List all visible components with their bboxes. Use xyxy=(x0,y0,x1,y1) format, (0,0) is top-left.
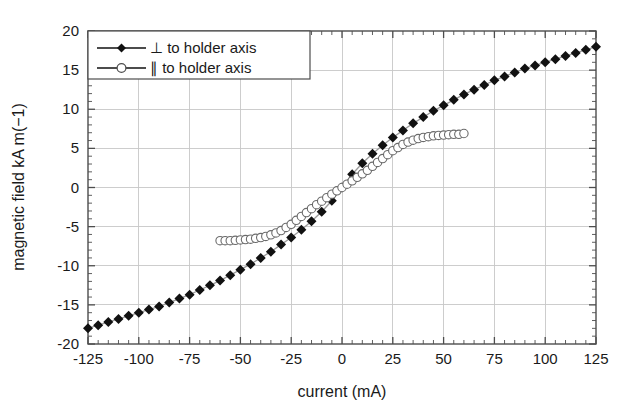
x-tick-label: 50 xyxy=(435,350,452,367)
chart-legend: ⊥ to holder axis ∥ to holder axis xyxy=(88,31,310,79)
x-tick-label: -25 xyxy=(280,350,302,367)
y-tick-label: 10 xyxy=(62,100,79,117)
x-tick-label: 75 xyxy=(486,350,503,367)
y-tick-label: 0 xyxy=(71,179,79,196)
chart-canvas: -125-100-75-50-250255075100125 -20-15-10… xyxy=(0,0,623,408)
y-tick-label: -5 xyxy=(66,218,79,235)
x-axis-title: current (mA) xyxy=(298,383,387,400)
y-tick-label: -15 xyxy=(57,296,79,313)
y-tick-label: -10 xyxy=(57,257,79,274)
y-tick-label: -20 xyxy=(57,335,79,352)
x-tick-label: -125 xyxy=(73,350,103,367)
x-tick-label: -75 xyxy=(179,350,201,367)
data-point-marker xyxy=(460,129,468,137)
x-tick-label: 25 xyxy=(384,350,401,367)
y-tick-label: 15 xyxy=(62,61,79,78)
y-tick-label: 5 xyxy=(71,139,79,156)
x-tick-label: -50 xyxy=(230,350,252,367)
x-tick-label: 0 xyxy=(338,350,346,367)
x-tick-label: 125 xyxy=(583,350,608,367)
x-tick-label: -100 xyxy=(124,350,154,367)
y-axis-title: magnetic field kA m(−1) xyxy=(10,103,27,271)
y-tick-label: 20 xyxy=(62,22,79,39)
chart-figure: -125-100-75-50-250255075100125 -20-15-10… xyxy=(0,0,623,408)
legend-label-parallel: ∥ to holder axis xyxy=(150,59,251,77)
x-tick-label: 100 xyxy=(533,350,558,367)
open-circle-icon xyxy=(117,64,126,73)
legend-label-perpendicular: ⊥ to holder axis xyxy=(150,39,256,56)
